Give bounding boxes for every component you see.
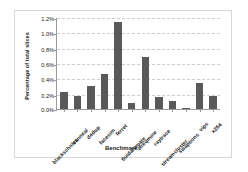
y-tick-label: 0.2%	[41, 93, 54, 99]
bar-slot	[166, 18, 180, 109]
y-axis-title: Percentage of total slices	[24, 21, 30, 111]
bar-slot	[138, 18, 152, 109]
y-tick-label: 0.0%	[41, 107, 54, 113]
y-tick-label: 0.4%	[41, 77, 54, 83]
bar-slot	[111, 18, 125, 109]
bar-slot	[179, 18, 193, 109]
bar-slot	[206, 18, 220, 109]
x-tick-label: vips	[197, 121, 209, 133]
bar	[142, 57, 149, 109]
bar-slot	[193, 18, 207, 109]
bar	[155, 97, 162, 109]
bar-series	[57, 18, 220, 109]
x-tick-label: facesim	[98, 127, 116, 145]
bar	[74, 96, 81, 109]
bar	[114, 22, 121, 109]
bar-slot	[98, 18, 112, 109]
x-axis-title: Benchmarks	[15, 145, 231, 151]
plot-area: 0.0%0.2%0.4%0.6%0.8%1.0%1.2%	[56, 18, 220, 110]
bar	[196, 83, 203, 109]
x-tick-label: ferret	[114, 123, 128, 137]
y-tick-label: 0.8%	[41, 47, 54, 53]
y-tick-label: 1.2%	[41, 16, 54, 22]
bar	[87, 86, 94, 109]
x-tick-label: x264	[210, 121, 223, 134]
bar-slot	[71, 18, 85, 109]
y-tick-label: 0.6%	[41, 62, 54, 68]
bar-slot	[125, 18, 139, 109]
bar-slot	[152, 18, 166, 109]
bar-slot	[84, 18, 98, 109]
bar	[60, 92, 67, 109]
bar	[169, 101, 176, 109]
x-tick-label: dedup	[85, 124, 101, 140]
y-tick-label: 1.0%	[41, 31, 54, 37]
bar-slot	[57, 18, 71, 109]
bar	[209, 96, 216, 109]
chart-figure: Percentage of total slices 0.0%0.2%0.4%0…	[14, 10, 232, 158]
bar	[101, 74, 108, 109]
